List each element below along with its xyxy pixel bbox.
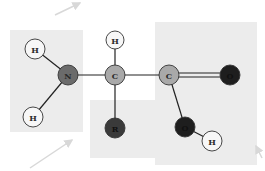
- atom-label: C: [166, 71, 172, 81]
- atom-o2: O: [175, 117, 195, 137]
- molecule-diagram: HHNCHRCOOH: [0, 0, 265, 171]
- atom-n: N: [58, 65, 78, 85]
- arrow-bottom-left-icon: [30, 140, 72, 168]
- atom-c-alpha: C: [105, 65, 125, 85]
- atom-label: R: [112, 124, 119, 134]
- atom-label: H: [208, 137, 216, 147]
- atom-h4: H: [202, 131, 222, 151]
- atom-label: H: [111, 36, 119, 46]
- arrow-top-icon: [55, 3, 80, 15]
- atom-r: R: [105, 118, 125, 138]
- atom-o1: O: [220, 65, 240, 85]
- atom-h3: H: [106, 31, 124, 49]
- atom-c-carboxyl: C: [159, 65, 179, 85]
- atom-label: O: [227, 71, 234, 81]
- arrows-layer: [30, 3, 262, 168]
- atom-label: O: [182, 123, 189, 133]
- atoms-layer: HHNCHRCOOH: [23, 31, 240, 151]
- arrow-bottom-right-icon: [256, 146, 262, 158]
- atom-h2: H: [23, 107, 43, 127]
- atom-label: N: [64, 71, 71, 81]
- atom-h1: H: [25, 39, 45, 59]
- bonds-layer: [33, 40, 230, 141]
- atom-label: H: [31, 45, 39, 55]
- atom-label: H: [29, 113, 37, 123]
- atom-label: C: [112, 71, 118, 81]
